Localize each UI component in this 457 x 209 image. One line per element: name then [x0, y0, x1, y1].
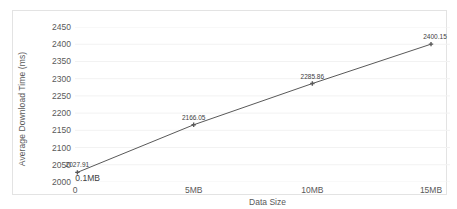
data-point-marker — [310, 81, 314, 85]
x-axis-tick-labels: 05MB10MB15MB — [75, 185, 450, 197]
data-point-marker — [429, 42, 433, 46]
y-axis-tick-label: 2400 — [25, 39, 71, 49]
y-axis-tick-label: 2350 — [25, 56, 71, 66]
y-axis-tick-label: 2250 — [25, 91, 71, 101]
data-point-label: 2027.91 — [66, 161, 90, 168]
x-axis-tick-label: 0 — [73, 185, 78, 195]
y-axis-tick-label: 2000 — [25, 177, 71, 187]
x-axis-tick-label: 5MB — [185, 185, 202, 195]
y-axis-tick-label: 2100 — [25, 143, 71, 153]
data-series-line — [77, 44, 431, 172]
data-point-label: 2400.15 — [423, 33, 447, 40]
chart-frame: Average Download Time (ms) 2000205021002… — [12, 10, 447, 195]
plot-area: 2027.912166.052285.862400.15 — [75, 27, 450, 182]
first-point-annotation: 0.1MB — [75, 173, 100, 183]
y-axis-tick-label: 2450 — [25, 22, 71, 32]
data-point-label: 2166.05 — [182, 114, 206, 121]
y-axis-tick-label: 2200 — [25, 108, 71, 118]
x-axis-title: Data Size — [75, 197, 457, 207]
y-axis-tick-label: 2150 — [25, 125, 71, 135]
x-axis-tick-label: 15MB — [420, 185, 442, 195]
y-axis-tick-label: 2300 — [25, 74, 71, 84]
y-axis-tick-labels: 2000205021002150220022502300235024002450 — [25, 27, 71, 182]
data-point-marker — [191, 123, 195, 127]
line-chart-svg — [75, 27, 450, 182]
x-axis-tick-label: 10MB — [301, 185, 323, 195]
y-axis-tick-label: 2050 — [25, 160, 71, 170]
data-point-label: 2285.86 — [301, 73, 325, 80]
